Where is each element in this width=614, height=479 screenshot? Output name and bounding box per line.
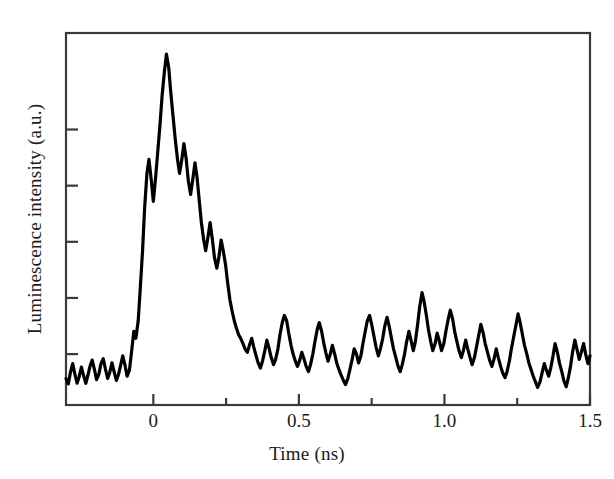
luminescence-decay-plot: [0, 0, 614, 479]
figure-container: 00.51.01.5 Time (ns) Luminescence intens…: [0, 0, 614, 479]
x-axis-title: Time (ns): [0, 443, 614, 465]
x-tick-label: 0: [123, 410, 183, 432]
x-tick-label: 1.0: [414, 410, 474, 432]
x-tick-label: 0.5: [269, 410, 329, 432]
y-axis-title: Luminescence intensity (a.u.): [22, 33, 48, 405]
x-tick-label: 1.5: [560, 410, 614, 432]
